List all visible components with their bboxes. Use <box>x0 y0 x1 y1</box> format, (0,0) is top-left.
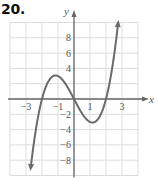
cubic-graph: −3−113864−2−4−6−8 x y <box>0 0 158 190</box>
x-axis-arrow-icon <box>142 97 149 102</box>
y-tick-label: 8 <box>66 32 71 43</box>
curve-arrow-icon <box>28 164 34 171</box>
x-tick-label: 3 <box>120 101 125 112</box>
x-tick-label: −3 <box>21 101 32 112</box>
curve-arrow-icon <box>115 20 121 27</box>
y-tick-label: −4 <box>60 124 71 135</box>
y-tick-label: −8 <box>60 155 71 166</box>
axes <box>8 10 149 178</box>
y-tick-label: 4 <box>66 63 71 74</box>
y-axis-arrow-icon <box>72 10 77 17</box>
y-tick-label: 6 <box>66 48 71 59</box>
y-tick-label: −6 <box>60 139 71 150</box>
y-axis-label: y <box>63 5 69 17</box>
x-tick-label: 1 <box>88 101 93 112</box>
y-tick-label: −2 <box>60 109 71 120</box>
x-axis-label: x <box>148 93 154 105</box>
